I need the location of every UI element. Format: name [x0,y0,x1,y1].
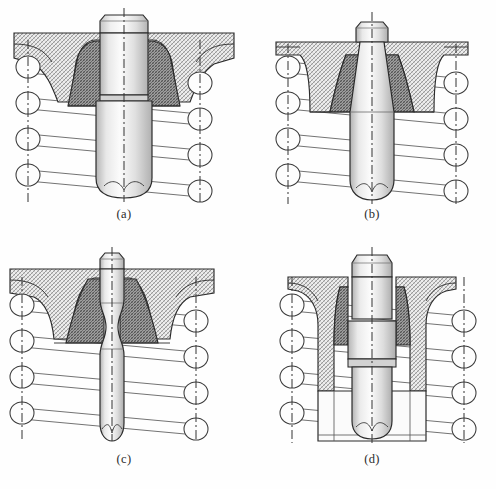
panel-a-drawing [14,8,234,202]
housing-section-right [142,33,234,106]
panel-label-a: (a) [0,207,248,222]
panel-b-drawing [276,12,468,204]
panel-c-drawing [10,247,214,441]
figure-root: (a) [0,0,496,489]
panel-label-d: (d) [248,452,496,467]
panel-label-b: (b) [248,207,496,222]
panel-d-drawing [280,247,476,443]
panel-label-c: (c) [0,452,248,467]
housing-section-right [396,277,456,391]
